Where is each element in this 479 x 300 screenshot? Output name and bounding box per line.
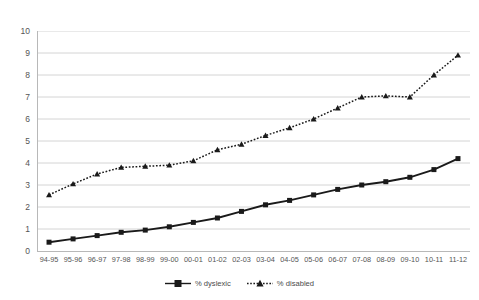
y-tick-label: 1 bbox=[25, 225, 30, 234]
y-axis: 109876543210 bbox=[0, 0, 37, 251]
x-tick-label: 01-02 bbox=[208, 256, 227, 263]
x-tick-label: 09-10 bbox=[401, 256, 420, 263]
legend-label-disabled: % disabled bbox=[277, 280, 314, 288]
y-tick-label: 7 bbox=[25, 93, 30, 102]
x-tick-label: 02-03 bbox=[232, 256, 251, 263]
x-axis: 94-9595-9696-9797-9898-9999-0000-0101-02… bbox=[37, 251, 470, 273]
y-tick-label: 10 bbox=[21, 27, 30, 36]
triangle-marker-icon bbox=[247, 279, 273, 288]
y-tick-label: 8 bbox=[25, 71, 30, 80]
x-tick-label: 98-99 bbox=[136, 256, 155, 263]
x-tick-label: 08-09 bbox=[376, 256, 395, 263]
y-tick-label: 4 bbox=[25, 159, 30, 168]
chart-legend: % dyslexic % disabled bbox=[0, 279, 479, 288]
x-tick-label: 00-01 bbox=[184, 256, 203, 263]
y-tick-label: 6 bbox=[25, 115, 30, 124]
series-layer bbox=[37, 31, 470, 251]
x-tick-label: 95-96 bbox=[64, 256, 83, 263]
y-axis-line bbox=[37, 31, 38, 251]
y-tick-label: 2 bbox=[25, 203, 30, 212]
x-tick-label: 99-00 bbox=[160, 256, 179, 263]
x-tick-label: 06-07 bbox=[328, 256, 347, 263]
x-tick-label: 97-98 bbox=[112, 256, 131, 263]
x-tick-label: 96-97 bbox=[88, 256, 107, 263]
x-tick-label: 94-95 bbox=[40, 256, 59, 263]
plot-area bbox=[37, 31, 470, 251]
y-tick-label: 3 bbox=[25, 181, 30, 190]
x-tick-label: 03-04 bbox=[256, 256, 275, 263]
legend-label-dyslexic: % dyslexic bbox=[195, 280, 231, 288]
x-tick-label: 11-12 bbox=[449, 256, 467, 263]
square-marker-icon bbox=[165, 279, 191, 288]
y-tick-label: 9 bbox=[25, 49, 30, 58]
legend-item-dyslexic[interactable]: % dyslexic bbox=[165, 279, 231, 288]
y-tick-label: 0 bbox=[25, 247, 30, 256]
legend-item-disabled[interactable]: % disabled bbox=[247, 279, 314, 288]
line-chart: 109876543210 94-9595-9696-9797-9898-9999… bbox=[0, 0, 479, 300]
x-tick-label: 05-06 bbox=[304, 256, 323, 263]
x-tick-label: 07-08 bbox=[352, 256, 371, 263]
x-tick-label: 10-11 bbox=[425, 256, 443, 263]
y-tick-label: 5 bbox=[25, 137, 30, 146]
x-tick-label: 04-05 bbox=[280, 256, 299, 263]
